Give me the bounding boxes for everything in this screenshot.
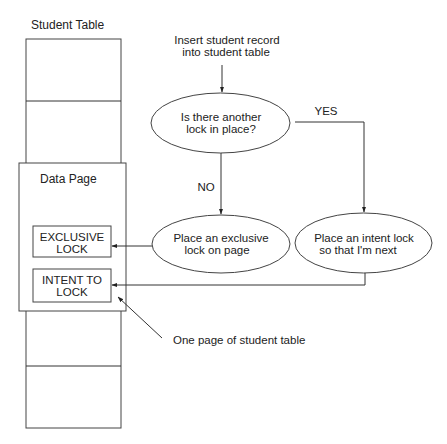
intent-lock-label-line2: LOCK [56,286,88,298]
exclusive-action-line1: Place an exclusive [173,232,268,244]
pointer-arrow-icon [118,297,162,338]
intent-action-line1: Place an intent lock [314,232,414,244]
student-table-title: Student Table [31,18,104,32]
exclusive-lock-label-line1: EXCLUSIVE [40,231,105,243]
decision-line2: lock in place? [186,123,256,135]
intent-action-line2: so that I'm next [319,244,397,256]
intent-lock-box: INTENT TO LOCK [33,269,111,302]
no-label: NO [197,181,214,193]
annotation-text: One page of student table [173,334,305,346]
intent-lock-label-line1: INTENT TO [42,274,102,286]
exclusive-lock-label-line2: LOCK [56,243,88,255]
intent-connector-arrow-icon [112,273,365,285]
annotation: One page of student table [118,297,305,346]
intent-action-node: Place an intent lock so that I'm next [295,213,432,273]
yes-label: YES [314,105,337,117]
exclusive-action-node: Place an exclusive lock on page [152,215,290,273]
start-step-line2: into student table [182,46,270,58]
data-page: Data Page EXCLUSIVE LOCK INTENT TO LOCK [19,163,126,311]
exclusive-lock-box: EXCLUSIVE LOCK [33,226,111,257]
decision-node: Is there another lock in place? [151,93,290,153]
lock-diagram: Student Table Data Page EXCLUSIVE LOCK I… [0,0,447,444]
start-step-line1: Insert student record [174,34,279,46]
yes-branch-arrow-icon [295,122,364,212]
exclusive-action-line2: lock on page [184,244,249,256]
flowchart: Insert student record into student table… [112,34,432,285]
decision-line1: Is there another [181,111,262,123]
data-page-title: Data Page [40,172,97,186]
